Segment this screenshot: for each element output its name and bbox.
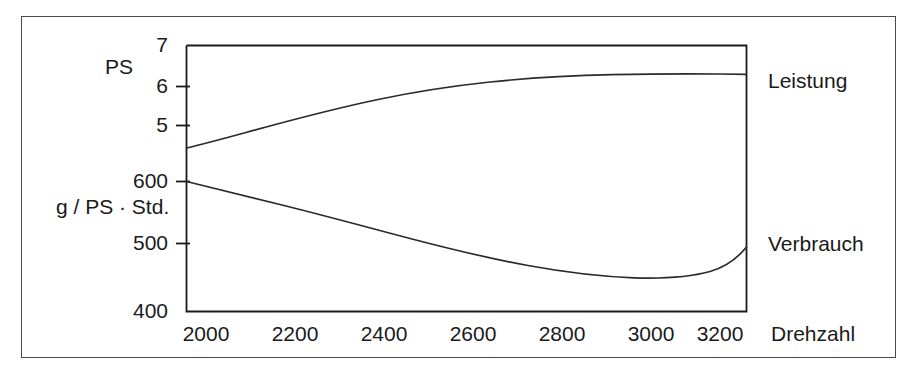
ytick-label-7: 7 [132, 34, 168, 55]
series-label-verbrauch: Verbrauch [768, 233, 864, 254]
xtick-label-2200: 2200 [265, 323, 325, 344]
engine-performance-chart: PS g / PS · Std. 7 6 5 600 500 400 2000 … [0, 0, 917, 376]
ytick-label-6: 6 [132, 75, 168, 96]
ytick-label-600: 600 [110, 170, 168, 191]
xtick-label-2800: 2800 [532, 323, 592, 344]
xtick-label-3200: 3200 [690, 323, 750, 344]
series-label-leistung: Leistung [768, 70, 847, 91]
curve-verbrauch [187, 182, 747, 279]
xtick-label-2400: 2400 [354, 323, 414, 344]
xtick-label-2000: 2000 [176, 323, 236, 344]
y-axis-ticks [176, 87, 190, 244]
xtick-label-3000: 3000 [621, 323, 681, 344]
consumption-unit-label: g / PS · Std. [56, 196, 169, 217]
curve-leistung [187, 74, 747, 148]
ytick-label-5: 5 [132, 114, 168, 135]
power-unit-label: PS [105, 56, 133, 77]
ytick-label-400: 400 [110, 300, 168, 321]
xtick-label-2600: 2600 [443, 323, 503, 344]
x-axis-label: Drehzahl [771, 323, 855, 344]
ytick-label-500: 500 [110, 232, 168, 253]
